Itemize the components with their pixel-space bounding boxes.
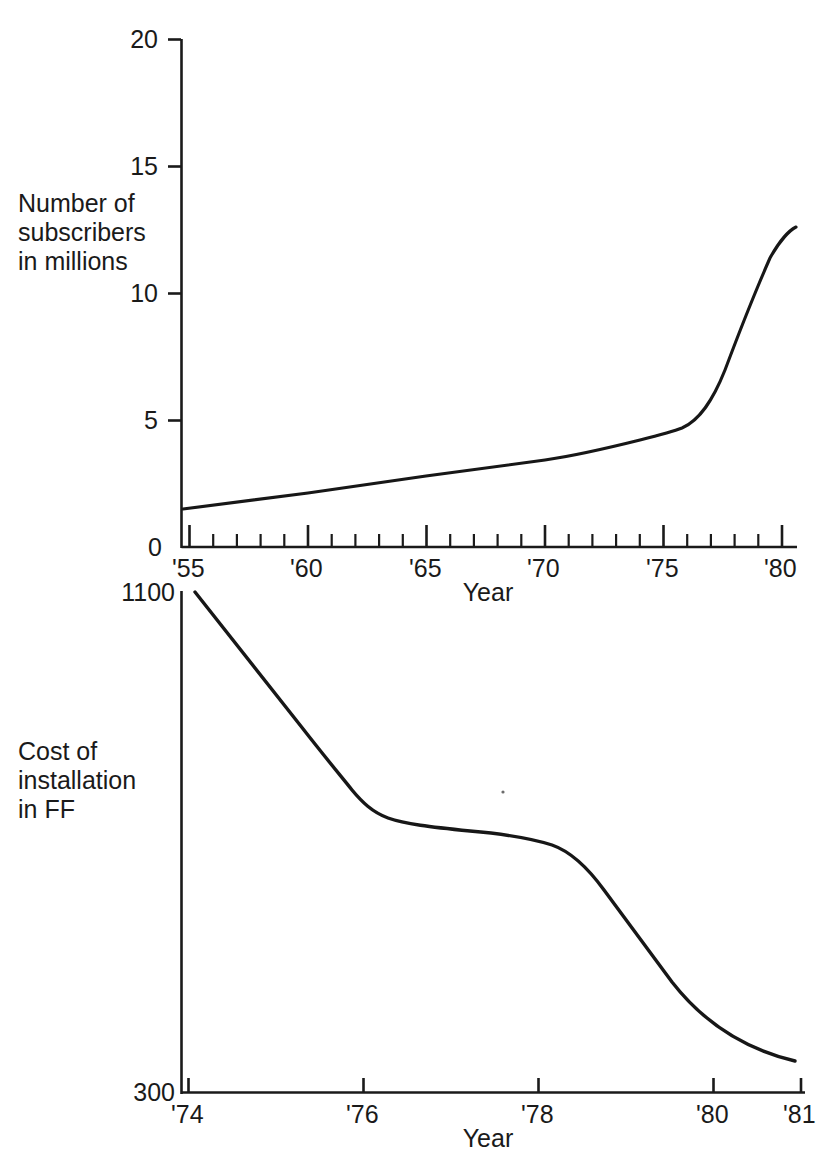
subscribers-x-tick-label-70: '70 bbox=[527, 554, 560, 582]
subscribers-x-tick-label-65: '65 bbox=[409, 554, 442, 582]
cost-y-tick-label-300: 300 bbox=[133, 1078, 175, 1106]
subscribers-y-axis-label-line-2: subscribers bbox=[18, 218, 146, 246]
subscribers-x-axis-title: Year bbox=[463, 578, 514, 606]
subscribers-x-ticks bbox=[190, 525, 783, 546]
subscribers-x-tick-label-60: '60 bbox=[290, 554, 323, 582]
subscribers-y-tick-label-0: 0 bbox=[148, 533, 162, 561]
cost-x-tick-label-76: '76 bbox=[346, 1100, 379, 1128]
cost-x-ticks bbox=[189, 1078, 802, 1092]
cost-x-tick-label-80: '80 bbox=[696, 1100, 729, 1128]
subscribers-y-tick-label-15: 15 bbox=[130, 152, 158, 180]
cost-y-axis-label-line-2: installation bbox=[18, 766, 136, 794]
cost-y-axis-label-line-3: in FF bbox=[18, 795, 75, 823]
subscribers-y-axis-label-line-3: in millions bbox=[18, 247, 128, 275]
subscribers-data-curve bbox=[183, 227, 796, 509]
subscribers-y-tick-label-10: 10 bbox=[130, 279, 158, 307]
cost-x-tick-label-81: '81 bbox=[783, 1100, 816, 1128]
subscribers-x-tick-label-55: '55 bbox=[172, 554, 205, 582]
cost-data-curve bbox=[195, 592, 795, 1061]
subscribers-chart: Number of subscribers in millions 20 15 … bbox=[18, 25, 797, 606]
cost-x-tick-label-74: '74 bbox=[171, 1100, 204, 1128]
subscribers-y-axis-label-line-1: Number of bbox=[18, 189, 135, 217]
subscribers-y-ticks bbox=[168, 40, 181, 421]
cost-x-axis-title: Year bbox=[463, 1124, 514, 1152]
two-panel-line-figure: Number of subscribers in millions 20 15 … bbox=[0, 0, 828, 1166]
subscribers-y-tick-label-20: 20 bbox=[130, 25, 158, 53]
figure-page: Number of subscribers in millions 20 15 … bbox=[0, 0, 828, 1166]
scan-speck bbox=[501, 790, 504, 793]
subscribers-x-tick-label-75: '75 bbox=[646, 554, 679, 582]
cost-y-axis-label-line-1: Cost of bbox=[18, 737, 97, 765]
cost-y-tick-label-1100: 1100 bbox=[121, 578, 175, 606]
cost-chart: Cost of installation in FF 1100 300 '74 … bbox=[18, 578, 816, 1152]
cost-x-tick-label-78: '78 bbox=[521, 1100, 554, 1128]
subscribers-y-tick-label-5: 5 bbox=[144, 406, 158, 434]
subscribers-x-tick-label-80: '80 bbox=[764, 554, 797, 582]
